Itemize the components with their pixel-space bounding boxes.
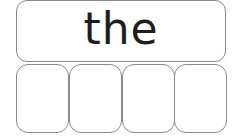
letter-box-row (16, 64, 227, 133)
sight-word-box: the (16, 0, 226, 62)
sight-word: the (83, 7, 158, 51)
letter-box-1[interactable] (16, 64, 69, 133)
letter-box-4[interactable] (174, 64, 227, 133)
letter-box-2[interactable] (69, 64, 122, 133)
letter-box-3[interactable] (122, 64, 175, 133)
